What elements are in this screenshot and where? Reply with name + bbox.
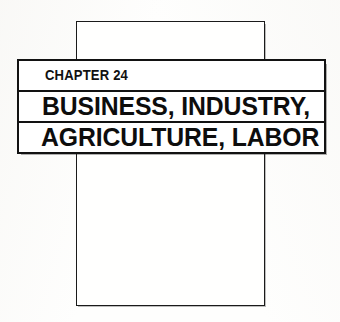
banner-row-title-line-1: BUSINESS, INDUSTRY, — [19, 90, 324, 121]
chapter-title-banner: CHAPTER 24 BUSINESS, INDUSTRY, AGRICULTU… — [17, 59, 326, 154]
chapter-title-page: CHAPTER 24 BUSINESS, INDUSTRY, AGRICULTU… — [0, 0, 340, 322]
banner-row-chapter-number: CHAPTER 24 — [19, 61, 324, 90]
chapter-title-line-2: AGRICULTURE, LABOR — [41, 125, 319, 150]
chapter-number-label: CHAPTER 24 — [45, 68, 128, 83]
banner-row-title-line-2: AGRICULTURE, LABOR — [19, 121, 324, 152]
chapter-title-line-1: BUSINESS, INDUSTRY, — [42, 94, 310, 119]
